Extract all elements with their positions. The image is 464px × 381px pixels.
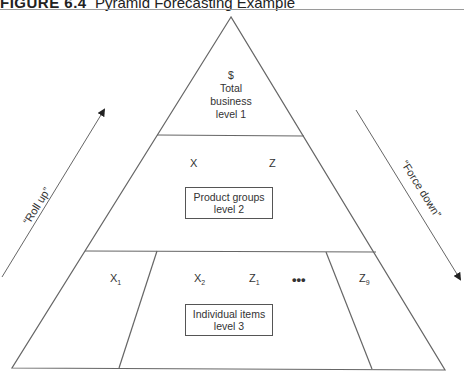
level3-box-line2: level 3 xyxy=(186,320,272,332)
force-down-arrow xyxy=(356,110,460,279)
level3-item-z9: Z9 xyxy=(359,272,370,286)
level2-box-line1: Product groups xyxy=(186,191,272,203)
level3-box: Individual items level 3 xyxy=(185,304,273,336)
level2-item-z: Z xyxy=(269,157,276,169)
roll-up-arrow xyxy=(2,110,104,277)
level2-item-x: X xyxy=(190,157,198,169)
level3-item-z1: Z1 xyxy=(249,272,260,286)
level3-item-x1: X1 xyxy=(110,272,121,286)
item-divider-left xyxy=(119,251,157,368)
level-divider-2-3 xyxy=(85,251,376,252)
level1-line-level: level 1 xyxy=(191,108,271,121)
level3-item-x2: X2 xyxy=(194,272,205,286)
level3-ellipsis: ••• xyxy=(292,272,306,287)
level2-box: Product groups level 2 xyxy=(185,187,273,219)
level1-line-business: business xyxy=(191,95,271,108)
level1-line-total: Total xyxy=(191,82,271,95)
level2-box-line2: level 2 xyxy=(186,203,272,215)
level3-box-line1: Individual items xyxy=(186,308,272,320)
level1-label: $ Total business level 1 xyxy=(191,69,271,121)
force-down-label: “Force down” xyxy=(399,158,444,220)
level1-dollar: $ xyxy=(191,69,271,82)
level-divider-1-2 xyxy=(157,135,304,136)
item-divider-right xyxy=(326,252,372,369)
